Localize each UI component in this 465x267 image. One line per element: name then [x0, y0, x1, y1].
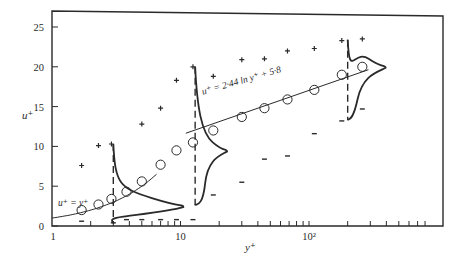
plus-marker — [239, 57, 244, 62]
axis-ticks: 051015202511010² — [34, 22, 426, 242]
x-tick-label: 10² — [302, 231, 316, 242]
plot-border — [52, 11, 443, 226]
pdf-curve — [348, 40, 386, 120]
plus-marker — [139, 122, 144, 127]
plus-marker — [79, 163, 84, 168]
x-tick-label: 1 — [50, 231, 55, 242]
viscous-law-line — [52, 174, 157, 218]
circle-marker — [209, 126, 218, 135]
plot-area: 051015202511010² y⁺ u⁺ u⁺ = y⁺ u⁺ = 2·44… — [0, 0, 465, 267]
circle-marker — [156, 160, 165, 169]
plus-marker — [312, 46, 317, 51]
plus-marker — [211, 74, 216, 79]
y-tick-label: 20 — [34, 62, 45, 73]
circle-marker — [107, 194, 116, 203]
circle-marker — [358, 62, 367, 71]
plus-marker — [262, 56, 267, 61]
annotation-log-law: u⁺ = 2·44 ln y⁺ + 5·8 — [201, 64, 283, 96]
x-axis-label: y⁺ — [244, 241, 256, 253]
plus-marker — [96, 143, 101, 148]
y-tick-label: 10 — [34, 141, 45, 152]
axes-frame — [52, 11, 443, 226]
annotations: u⁺ = y⁺ u⁺ = 2·44 ln y⁺ + 5·8 — [58, 64, 282, 208]
circle-marker — [137, 177, 146, 186]
circle-marker — [188, 138, 197, 147]
circle-marker — [172, 146, 181, 155]
plus-marker — [158, 106, 163, 111]
y-tick-label: 15 — [34, 102, 45, 113]
y-axis-label: u⁺ — [22, 109, 34, 121]
x-tick-label: 10 — [175, 231, 186, 242]
plus-marker — [360, 36, 365, 41]
pdf-profiles — [112, 40, 386, 224]
annotation-viscous-law: u⁺ = y⁺ — [58, 198, 88, 208]
chart: 051015202511010² y⁺ u⁺ u⁺ = y⁺ u⁺ = 2·44… — [0, 0, 465, 267]
plus-marker — [174, 78, 179, 83]
axis-labels: y⁺ u⁺ — [22, 109, 256, 253]
y-tick-label: 0 — [39, 221, 44, 232]
circle-marker — [337, 70, 346, 79]
plus-marker — [285, 48, 290, 53]
y-tick-label: 5 — [39, 181, 44, 192]
plus-marker — [339, 38, 344, 43]
y-tick-label: 25 — [34, 22, 45, 33]
circle-marker — [260, 104, 269, 113]
pdf-curve — [112, 144, 183, 224]
data-points — [77, 36, 367, 222]
